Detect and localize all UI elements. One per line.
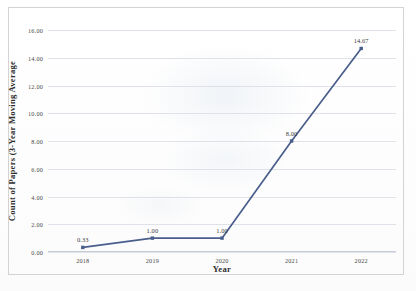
data-point-marker xyxy=(81,246,84,249)
gridline xyxy=(48,252,396,253)
x-axis-title: Year xyxy=(48,264,396,274)
data-point-label: 1.00 xyxy=(216,227,228,234)
y-axis-tick-label: 16.00 xyxy=(28,27,43,34)
data-point-marker xyxy=(151,236,154,239)
x-axis-tick-label: 2018 xyxy=(76,257,89,264)
data-point-marker xyxy=(290,139,293,142)
data-point-label: 14.67 xyxy=(354,37,369,44)
x-axis-tick-label: 2022 xyxy=(355,257,368,264)
y-axis-tick-label: 4.00 xyxy=(31,193,43,200)
y-axis-title: Count of Papers (3-Year Moving Average xyxy=(7,61,17,221)
y-axis-tick-label: 0.00 xyxy=(31,249,43,256)
y-axis-tick-label: 10.00 xyxy=(28,110,43,117)
y-axis-title-wrapper: Count of Papers (3-Year Moving Average xyxy=(0,30,26,252)
data-point-marker xyxy=(220,236,223,239)
series-line xyxy=(48,30,396,252)
y-axis-tick-label: 8.00 xyxy=(31,138,43,145)
chart-page: Count of Papers (3-Year Moving Average 0… xyxy=(0,0,416,291)
y-axis-tick-label: 14.00 xyxy=(28,54,43,61)
data-point-label: 8.00 xyxy=(286,130,298,137)
data-point-marker xyxy=(360,47,363,50)
y-axis-tick-label: 12.00 xyxy=(28,82,43,89)
x-axis-tick-label: 2021 xyxy=(285,257,298,264)
data-point-label: 1.00 xyxy=(147,227,159,234)
plot-area: 0.002.004.006.008.0010.0012.0014.0016.00… xyxy=(48,30,396,252)
x-axis-tick-label: 2019 xyxy=(146,257,159,264)
y-axis-tick-label: 2.00 xyxy=(31,221,43,228)
x-axis-tick-label: 2020 xyxy=(215,257,228,264)
series-polyline xyxy=(83,48,361,247)
y-axis-tick-label: 6.00 xyxy=(31,165,43,172)
data-point-label: 0.33 xyxy=(77,236,89,243)
